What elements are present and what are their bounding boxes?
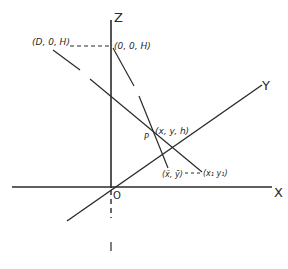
y-axis-label: Y [261,78,270,93]
x-axis-label: X [274,185,283,200]
shadow-1-label: (x₁ y₁) [203,169,228,178]
diagram-canvas: Z X Y O (D, 0, H) (0, 0, H) (x, y, h) P … [0,0,288,269]
y-axis [67,85,262,221]
ray-from-z-top-upper [113,48,134,86]
light-source-label: (D, 0, H) [32,37,70,47]
z-axis-label: Z [114,10,123,25]
z-top-label: (0, 0, H) [114,41,151,51]
projection-diagram: Z X Y O (D, 0, H) (0, 0, H) (x, y, h) P … [0,0,288,269]
point-p-label: P [144,133,149,142]
point-p-coords-label: (x, y, h) [155,126,189,136]
ray-from-light-source-upper [53,50,80,70]
origin-label: O [113,190,121,201]
shadow-bar-label: (x̄, ȳ) [162,170,183,179]
